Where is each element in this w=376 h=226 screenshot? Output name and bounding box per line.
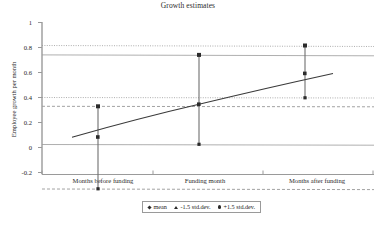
minus-std-marker-funding [197,143,200,146]
chart-plot-area [0,0,376,226]
diamond-marker-icon [147,205,151,209]
mean-trend-curve [72,74,333,138]
reference-line-mid-dashed [42,106,374,107]
minus-std-marker-before [96,187,99,190]
plus-std-marker-funding [197,53,201,57]
mean-marker-before [96,135,100,139]
reference-line-zero-solid [42,145,374,146]
reference-line-upper-solid [42,55,374,56]
legend-label-mean: mean [154,204,167,210]
legend-item-mean: mean [148,204,167,210]
chart-legend: mean -1.5 std.dev. +1.5 std.dev. [142,201,261,213]
circle-marker-icon [218,205,221,208]
reference-line-lower-dashed [42,189,374,190]
plus-std-marker-after [303,44,307,48]
minus-std-marker-after [303,96,306,99]
reference-line-mid-dotted [42,98,374,99]
reference-line-upper-dotted [42,46,374,47]
legend-item-minus-std: -1.5 std.dev. [174,204,211,210]
triangle-marker-icon [174,206,178,209]
mean-marker-after [303,72,307,76]
legend-label-plus-std: +1.5 std.dev. [223,204,255,210]
mean-marker-funding [197,102,201,106]
growth-estimates-chart: Growth estimates Employee growth per mon… [0,0,376,226]
legend-item-plus-std: +1.5 std.dev. [218,204,256,210]
legend-label-minus-std: -1.5 std.dev. [180,204,210,210]
plus-std-marker-before [96,104,100,108]
